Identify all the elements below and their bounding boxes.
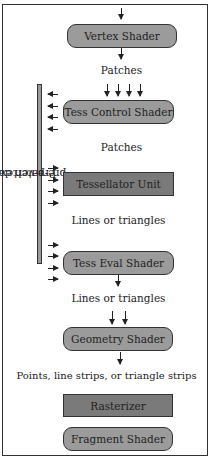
arrow-right-icon [48,191,58,192]
arrow-down-icon [121,8,122,19]
arrow-left-icon [48,106,58,107]
edge-label-lines-or-triangles-1: Lines or triangles [0,214,213,226]
tess-control-shader-node: Tess Control Shader [63,100,174,124]
edge-label-primitives: Points, line strips, or triangle strips [0,370,213,381]
arrow-down-icon [112,311,113,324]
arrow-down-icon [140,84,141,96]
arrow-right-icon [48,245,58,246]
arrow-right-icon [48,279,58,280]
arrow-down-icon [118,84,119,96]
arrow-right-icon [48,203,58,204]
arrow-left-icon [48,117,58,118]
geometry-shader-node: Geometry Shader [63,327,173,351]
tessellator-unit-node: Tessellator Unit [63,172,174,196]
arrow-right-icon [48,256,58,257]
fragment-shader-label: Fragment Shader [71,433,165,445]
vertex-shader-label: Vertex Shader [84,30,160,42]
arrow-left-icon [48,129,58,130]
edge-label-patches-2: Patches [0,141,213,153]
rasterizer-label: Rasterizer [90,400,145,412]
tess-control-shader-label: Tess Control Shader [64,106,172,118]
vertex-shader-node: Vertex Shader [67,24,177,48]
arrow-left-icon [48,94,58,95]
arrow-right-icon [48,268,58,269]
fragment-shader-node: Fragment Shader [63,427,173,451]
tess-eval-shader-label: Tess Eval Shader [73,257,164,269]
arrow-right-icon [48,168,58,169]
arrow-down-icon [121,48,122,59]
geometry-shader-label: Geometry Shader [71,333,165,345]
arrow-down-icon [129,84,130,96]
side-bar-label: Pre-vertex datapre-patch data [6,84,36,264]
arrow-down-icon [125,311,126,324]
edge-label-lines-or-triangles-2: Lines or triangles [0,292,213,304]
arrow-down-icon [118,275,119,286]
edge-label-patches-1: Patches [0,64,213,76]
arrow-down-icon [107,84,108,96]
arrow-right-icon [48,180,58,181]
arrow-down-icon [120,352,121,364]
tessellator-unit-label: Tessellator Unit [76,178,160,190]
rasterizer-node: Rasterizer [63,394,173,417]
tess-eval-shader-node: Tess Eval Shader [63,251,174,275]
